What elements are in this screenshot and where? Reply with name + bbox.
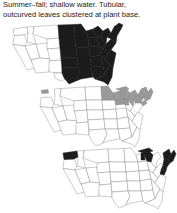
distribution-map-3: [55, 146, 177, 210]
species-caption: Summer–fall; shallow water. Tubular, out…: [3, 0, 177, 19]
us-map-svg-2: [32, 84, 154, 148]
distribution-map-1: [5, 22, 127, 86]
distribution-map-stack: [0, 20, 177, 213]
shaded-states-1: [58, 23, 123, 85]
us-map-svg-3: [55, 146, 177, 210]
us-map-svg-1: [5, 22, 127, 86]
distribution-map-2: [32, 84, 154, 148]
page-root: Summer–fall; shallow water. Tubular, out…: [0, 0, 177, 213]
